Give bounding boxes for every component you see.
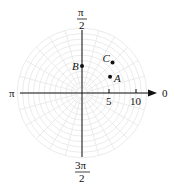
angle-label-half-pi: π 2 [77, 6, 87, 31]
angle-label-zero: 0 [162, 87, 168, 99]
tick-label-10: 10 [130, 95, 142, 107]
axis-arrow-icon [148, 90, 157, 97]
tick-label-5: 5 [106, 95, 112, 107]
half-pi-denominator: 2 [79, 19, 85, 31]
three-half-pi-numerator: 3π [75, 159, 87, 171]
point-label-b: B [72, 60, 79, 72]
point-b [80, 64, 84, 68]
point-a [108, 75, 112, 79]
point-label-c: C [103, 52, 111, 64]
point-c [111, 60, 115, 64]
three-half-pi-denominator: 2 [79, 172, 85, 184]
polar-diagram: 5 10 0 π π 2 3π 2 ABC [0, 0, 175, 185]
angle-label-pi: π [9, 87, 15, 99]
point-label-a: A [113, 72, 121, 84]
half-pi-numerator: π [78, 6, 84, 18]
angle-label-three-half-pi: 3π 2 [75, 159, 90, 184]
